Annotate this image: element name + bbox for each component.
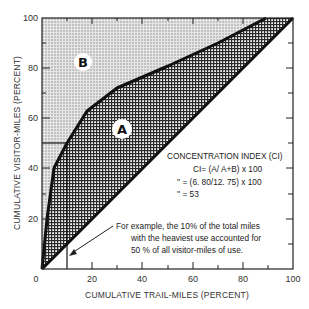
region-b-label: B <box>78 55 88 70</box>
example-note-line2: with the heaviest use accounted for <box>130 233 261 243</box>
y-tick-60: 60 <box>28 113 38 123</box>
ci-formula-3: '' = 53 <box>177 189 199 199</box>
x-tick-40: 40 <box>137 274 147 284</box>
y-tick-80: 80 <box>28 63 38 73</box>
ci-formula-1: CI= (A/ A+B) x 100 <box>193 164 263 174</box>
example-note-line3: 50 % of all visitor-miles of use. <box>131 245 243 255</box>
concentration-chart: 100 80 60 40 20 0 20 40 60 80 100 CUMULA… <box>0 0 309 309</box>
y-tick-40: 40 <box>28 163 38 173</box>
x-tick-80: 80 <box>238 274 248 284</box>
region-a-label: A <box>117 122 127 137</box>
x-tick-100: 100 <box>285 274 300 284</box>
y-tick-20: 20 <box>28 214 38 224</box>
y-tick-100: 100 <box>23 13 38 23</box>
x-tick-20: 20 <box>87 274 97 284</box>
y-axis-title: CUMULATIVE VISITOR-MILES (PERCENT) <box>12 56 22 230</box>
x-axis-title: CUMULATIVE TRAIL-MILES (PERCENT) <box>85 290 249 300</box>
example-note-line1: For example, the 10% of the total miles <box>116 221 260 231</box>
x-tick-60: 60 <box>188 274 198 284</box>
x-tick-0: 0 <box>33 274 38 284</box>
ci-formula-2: '' = (6. 80/12. 75) x 100 <box>177 177 262 187</box>
ci-title: CONCENTRATION INDEX (CI) <box>167 151 283 161</box>
